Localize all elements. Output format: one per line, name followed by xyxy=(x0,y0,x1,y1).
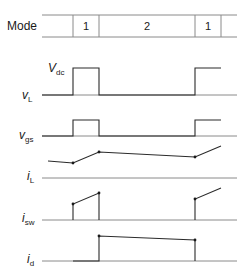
iL-label: iL xyxy=(27,169,35,185)
id-label: id xyxy=(27,252,34,268)
vL-waveform xyxy=(42,68,221,95)
vdc-annotation: Vdc xyxy=(48,61,64,77)
isw-label: isw xyxy=(22,211,35,227)
isw-waveform xyxy=(73,193,99,220)
signal-vL: vL Vdc xyxy=(22,61,237,104)
isw-point xyxy=(98,192,101,195)
mode-cell-1b: 1 xyxy=(205,20,211,32)
isw-point xyxy=(194,198,197,201)
id-point xyxy=(194,239,197,242)
iL-point xyxy=(194,156,197,159)
vgs-waveform xyxy=(42,120,221,136)
mode-cell-2: 2 xyxy=(144,20,150,32)
waveform-diagram: Mode 1 2 1 vL Vdc vgs iL isw xyxy=(0,0,249,279)
id-waveform xyxy=(73,236,195,261)
isw-waveform-2 xyxy=(195,188,221,220)
iL-waveform xyxy=(48,146,221,163)
mode-table: Mode 1 2 1 xyxy=(7,15,237,37)
signal-isw: isw xyxy=(22,188,237,227)
signal-iL: iL xyxy=(27,146,237,185)
isw-point xyxy=(72,203,75,206)
vgs-label: vgs xyxy=(19,128,33,144)
iL-point xyxy=(72,162,75,165)
iL-point xyxy=(98,151,101,154)
vL-label: vL xyxy=(22,88,33,104)
mode-cell-1: 1 xyxy=(83,20,89,32)
id-point xyxy=(98,235,101,238)
signal-vgs: vgs xyxy=(19,120,237,144)
signal-id: id xyxy=(27,235,237,268)
mode-label: Mode xyxy=(7,19,37,33)
